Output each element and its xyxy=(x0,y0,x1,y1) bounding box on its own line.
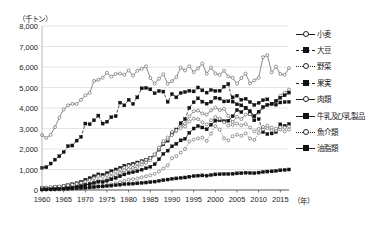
x-tick-label: 2005 xyxy=(229,195,246,204)
legend-item[interactable]: 小麦 xyxy=(296,26,388,42)
legend-marker-icon xyxy=(296,111,315,121)
x-tick-label: 1965 xyxy=(55,195,72,204)
legend-item-label: 肉類 xyxy=(317,95,331,104)
legend-marker-icon xyxy=(296,78,315,88)
legend-item[interactable]: 魚介類 xyxy=(296,124,388,140)
legend-item-label: 野菜 xyxy=(317,62,331,71)
legend-marker-icon xyxy=(296,128,315,138)
legend-item[interactable]: 油脂類 xyxy=(296,141,388,157)
x-tick-label: 2010 xyxy=(250,195,267,204)
x-tick-label: 1980 xyxy=(120,195,137,204)
chart-container: （千トン） 01,0002,0003,0004,0005,0006,0007,0… xyxy=(0,0,390,225)
x-tick-label: 1975 xyxy=(99,195,116,204)
x-tick-label: 2000 xyxy=(207,195,224,204)
legend-item-label: 小麦 xyxy=(317,30,331,39)
legend-marker-icon xyxy=(296,29,315,39)
legend-marker-icon xyxy=(296,46,315,56)
legend-marker-icon xyxy=(296,95,315,105)
x-tick-label: 1995 xyxy=(185,195,202,204)
chart-legend: 小麦大豆野菜果実肉類牛乳及び乳製品魚介類油脂類 xyxy=(296,26,388,157)
x-tick-label: 1985 xyxy=(142,195,159,204)
x-tick-label: 1960 xyxy=(34,195,51,204)
legend-item-label: 油脂類 xyxy=(317,144,337,153)
x-axis-unit-label: （年） xyxy=(293,195,314,206)
legend-item[interactable]: 野菜 xyxy=(296,59,388,75)
legend-item[interactable]: 果実 xyxy=(296,75,388,91)
legend-item[interactable]: 牛乳及び乳製品 xyxy=(296,108,388,124)
legend-item-label: 牛乳及び乳製品 xyxy=(317,112,365,121)
x-tick-label: 1990 xyxy=(164,195,181,204)
legend-item-label: 大豆 xyxy=(317,46,331,55)
legend-item-label: 魚介類 xyxy=(317,128,337,137)
legend-marker-icon xyxy=(296,62,315,72)
x-tick-label: 2015 xyxy=(272,195,289,204)
legend-item[interactable]: 大豆 xyxy=(296,42,388,58)
x-tick-label: 1970 xyxy=(77,195,94,204)
legend-item-label: 果実 xyxy=(317,79,331,88)
legend-marker-icon xyxy=(296,144,315,154)
legend-item[interactable]: 肉類 xyxy=(296,92,388,108)
